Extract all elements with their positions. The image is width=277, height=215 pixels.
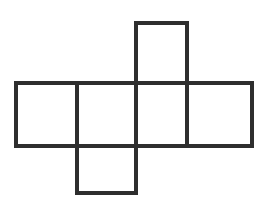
cube-net-figure [0,0,277,215]
face-row-1 [16,83,77,146]
face-top [136,23,187,83]
face-row-3 [136,83,187,146]
face-row-4 [187,83,252,146]
face-bottom [77,146,136,193]
face-row-2 [77,83,136,146]
cube-net-svg [0,0,277,215]
